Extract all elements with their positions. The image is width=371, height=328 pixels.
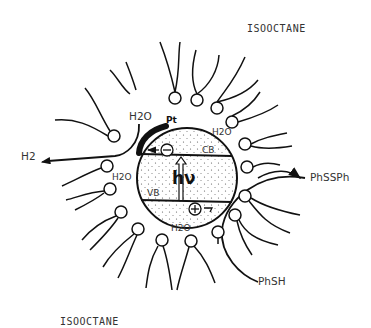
water-label-left: H2O	[112, 173, 132, 182]
reactant-thiol-label: PhSH	[258, 276, 286, 287]
product-disulfide-label: PhSSPh	[310, 172, 349, 183]
photon-label: hν	[172, 170, 196, 187]
conduction-band-label: CB	[202, 146, 214, 155]
h2-exit-path	[48, 124, 139, 161]
valence-band-label: VB	[147, 189, 159, 198]
water-label-right: H2O	[212, 128, 232, 137]
water-label-bottom: H2O	[171, 224, 191, 233]
reverse-micelle-diagram	[0, 0, 371, 328]
platinum-label: Pt	[166, 116, 177, 125]
solvent-label-bottom: ISOOCTANE	[60, 317, 119, 327]
solvent-label-top: ISOOCTANE	[247, 24, 306, 34]
water-label-top-left: H2O	[129, 111, 152, 122]
h2-label: H2	[21, 151, 36, 162]
